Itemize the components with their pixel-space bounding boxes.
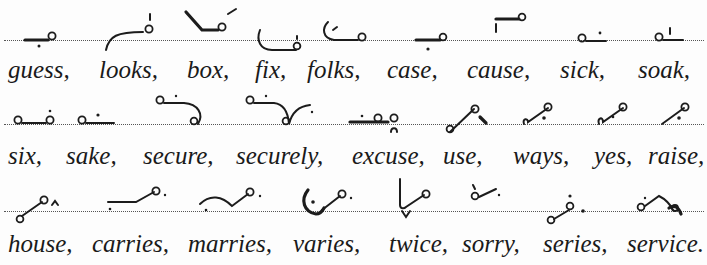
outline-fix: [254, 26, 304, 54]
word-excuse: excuse,: [352, 143, 425, 168]
word-sorry: sorry,: [462, 231, 520, 256]
word-cause: cause,: [467, 57, 530, 82]
word-guess: guess,: [8, 57, 70, 82]
outline-marries: [198, 186, 268, 216]
outline-soak: [655, 20, 695, 44]
outline-box: [182, 6, 242, 36]
outline-use: [446, 103, 491, 135]
outline-case: [414, 30, 454, 54]
word-securely: securely,: [236, 143, 323, 168]
word-series: series,: [543, 231, 608, 256]
outline-series: [545, 190, 595, 230]
word-raise: raise,: [648, 143, 704, 168]
outline-securely: [244, 94, 324, 128]
outline-guess: [22, 28, 62, 48]
word-six: six,: [8, 143, 42, 168]
word-fix: fix,: [255, 57, 286, 82]
outline-sick: [578, 30, 618, 46]
outline-looks: [103, 8, 163, 53]
outline-house: [14, 193, 64, 227]
word-use: use,: [443, 143, 483, 168]
word-looks: looks,: [99, 57, 158, 82]
outline-raise: [660, 102, 700, 130]
shorthand-exercise-page: guess, looks, box, fix, folks, case, cau…: [0, 0, 707, 265]
outline-secure: [154, 94, 214, 128]
outline-sake: [76, 108, 121, 128]
word-marries: marries,: [188, 231, 272, 256]
outline-yes: [595, 102, 635, 132]
word-carries: carries,: [92, 231, 169, 256]
word-secure: secure,: [143, 143, 214, 168]
outline-six: [12, 108, 62, 128]
outline-excuse: [350, 110, 410, 138]
outline-varies: [300, 188, 360, 220]
outline-service: [635, 190, 695, 220]
outline-carries: [104, 186, 174, 216]
outline-folks: [320, 20, 380, 46]
word-ways: ways,: [513, 143, 569, 168]
outline-ways: [520, 102, 560, 132]
outline-sorry: [466, 183, 511, 213]
word-folks: folks,: [307, 57, 360, 82]
word-twice: twice,: [389, 231, 448, 256]
word-case: case,: [387, 57, 438, 82]
word-house: house,: [8, 231, 73, 256]
word-soak: soak,: [638, 57, 690, 82]
word-sick: sick,: [560, 57, 605, 82]
outline-cause: [494, 16, 534, 36]
word-box: box,: [187, 57, 229, 82]
outline-twice: [392, 175, 437, 220]
word-service: service.: [627, 231, 704, 256]
word-varies: varies,: [293, 231, 360, 256]
word-sake: sake,: [66, 143, 117, 168]
word-yes: yes,: [594, 143, 632, 168]
